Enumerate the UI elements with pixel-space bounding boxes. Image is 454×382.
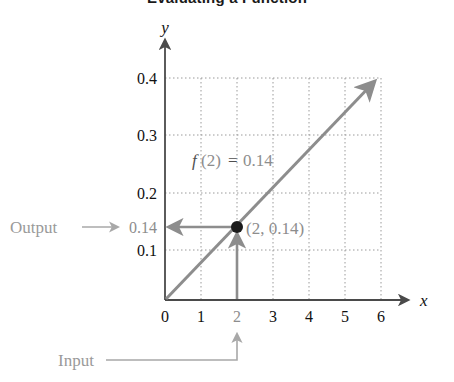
x-tick-1: 1 [197, 308, 205, 325]
y-tick-0-14: 0.14 [129, 219, 157, 236]
function-eval-equals: = [228, 151, 238, 170]
output-callout: Output [10, 218, 118, 237]
function-evaluation-annotation: f (2) = 0.14 [192, 151, 273, 170]
x-tick-0: 0 [161, 308, 169, 325]
y-tick-labels: 0.4 0.3 0.2 0.14 0.1 [129, 70, 157, 259]
function-eval-value: 0.14 [243, 151, 273, 170]
x-axis-label: x [419, 291, 428, 310]
figure-title: Evaluating a Function [0, 0, 454, 6]
x-tick-6: 6 [377, 308, 385, 325]
input-callout: Input [58, 334, 237, 370]
data-point-marker [231, 221, 243, 233]
function-line [166, 82, 374, 299]
x-tick-labels: 0 1 2 3 4 5 6 [161, 308, 385, 325]
figure-container: Evaluating a Function [0, 0, 454, 382]
function-graph: 0.4 0.3 0.2 0.14 0.1 0 1 2 3 4 5 6 y x f… [0, 0, 454, 382]
x-tick-5: 5 [341, 308, 349, 325]
y-axis-label: y [159, 18, 169, 37]
grid-vertical [201, 78, 381, 300]
point-coordinate-label: (2, 0.14) [246, 219, 304, 238]
y-tick-0-2: 0.2 [137, 185, 157, 202]
x-tick-3: 3 [269, 308, 277, 325]
output-callout-label: Output [10, 218, 58, 237]
function-eval-f: f [192, 151, 199, 170]
function-eval-arg: (2) [201, 151, 221, 170]
y-tick-0-1: 0.1 [137, 242, 157, 259]
input-callout-arrow [106, 334, 237, 360]
x-tick-4: 4 [305, 308, 313, 325]
input-callout-label: Input [58, 351, 94, 370]
y-tick-0-4: 0.4 [137, 70, 157, 87]
x-tick-2: 2 [233, 308, 241, 325]
y-tick-0-3: 0.3 [137, 127, 157, 144]
